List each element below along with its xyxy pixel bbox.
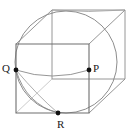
edge-top-left-receding bbox=[16, 10, 52, 44]
point-label-r: R bbox=[57, 119, 64, 130]
point-q-marker bbox=[14, 68, 19, 73]
geometry-figure: Q P R bbox=[0, 0, 131, 135]
point-r-marker bbox=[56, 111, 61, 116]
inscribed-sphere-circle bbox=[15, 11, 117, 113]
arc-through-q-p bbox=[16, 70, 89, 76]
geometry-svg bbox=[0, 0, 131, 135]
point-label-q: Q bbox=[2, 63, 10, 74]
point-p-marker bbox=[87, 68, 92, 73]
edge-top-right-receding bbox=[89, 10, 125, 44]
point-label-p: P bbox=[93, 63, 99, 74]
edge-bottom-right-receding bbox=[89, 79, 125, 113]
